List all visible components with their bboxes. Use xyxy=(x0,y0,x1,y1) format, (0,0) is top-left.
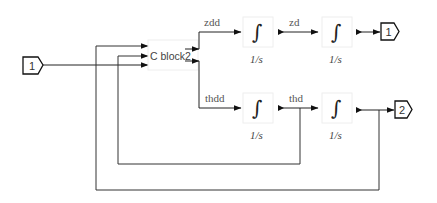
signal-label-thd: thd xyxy=(289,92,304,104)
integrator-4-transfer: 1/s xyxy=(329,129,342,141)
inport-1[interactable]: 1 xyxy=(23,57,43,74)
subsystem-c-block2[interactable]: C block2 xyxy=(148,40,198,70)
integral-icon: ∫ xyxy=(331,96,341,120)
outport-1-label: 1 xyxy=(386,26,392,38)
signal-zdd[interactable] xyxy=(199,32,241,49)
block-diagram-canvas: 1 C block2 zdd thdd ∫ 1/s zd ∫ 1/s 1 xyxy=(0,0,437,203)
integral-icon: ∫ xyxy=(252,20,262,44)
integrator-1-output-port xyxy=(278,29,284,35)
inport-1-label: 1 xyxy=(29,60,35,72)
signal-label-zdd: zdd xyxy=(204,16,220,28)
integral-icon: ∫ xyxy=(252,96,262,120)
signal-label-thdd: thdd xyxy=(205,92,225,104)
integrator-2[interactable]: ∫ 1/s xyxy=(322,17,352,65)
outport-1[interactable]: 1 xyxy=(381,23,399,40)
outport-2[interactable]: 2 xyxy=(395,101,412,118)
integrator-1[interactable]: ∫ 1/s xyxy=(243,17,273,65)
signal-label-zd: zd xyxy=(289,16,300,28)
integrator-4-output-port xyxy=(356,107,362,113)
subsystem-label: C block2 xyxy=(150,50,191,62)
integrator-2-output-port xyxy=(356,29,362,35)
integrator-3-output-port xyxy=(278,105,284,111)
outport-2-label: 2 xyxy=(399,104,405,116)
integrator-4[interactable]: ∫ 1/s xyxy=(322,93,352,141)
integral-icon: ∫ xyxy=(331,20,341,44)
integrator-3[interactable]: ∫ 1/s xyxy=(243,93,273,141)
integrator-2-transfer: 1/s xyxy=(329,53,342,65)
integrator-3-transfer: 1/s xyxy=(250,129,263,141)
integrator-1-transfer: 1/s xyxy=(250,53,263,65)
